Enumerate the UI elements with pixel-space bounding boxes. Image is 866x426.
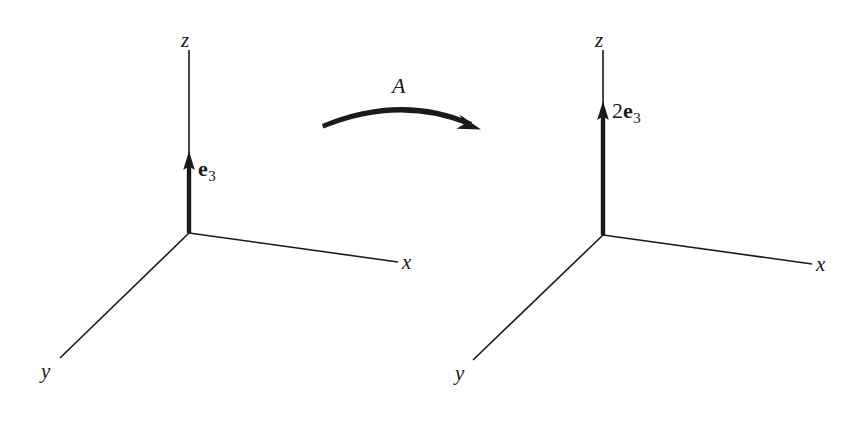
basis-vector-e3-label: e3 <box>198 158 216 184</box>
transformed-vector-2e3-scalar: 2 <box>612 98 623 123</box>
codomain-coordinate-system <box>473 50 812 360</box>
z-axis-label-right: z <box>595 30 603 51</box>
basis-vector-e3-subscript: 3 <box>208 168 216 184</box>
basis-vector-e3 <box>183 151 195 233</box>
y-axis-line <box>60 233 189 358</box>
transformation-arrow-arc <box>322 107 472 129</box>
linear-transformation-figure: z x y e3 z x y 2e3 A <box>0 0 866 426</box>
domain-coordinate-system <box>60 50 398 358</box>
transformation-operator-label: A <box>392 75 405 97</box>
x-axis-line-right <box>603 235 812 264</box>
transformed-vector-2e3-basis: e <box>623 98 633 123</box>
x-axis-line <box>189 233 398 262</box>
x-axis-label-right: x <box>816 254 826 275</box>
figure-canvas <box>0 0 866 426</box>
basis-vector-e3-basis: e <box>198 156 208 181</box>
transformed-vector-2e3 <box>597 101 609 235</box>
z-axis-label: z <box>181 30 189 51</box>
transformed-vector-2e3-label: 2e3 <box>612 100 641 126</box>
transformed-vector-2e3-subscript: 3 <box>633 110 641 126</box>
y-axis-label-right: y <box>455 363 465 384</box>
transformation-arrow <box>322 107 481 130</box>
y-axis-label: y <box>41 361 51 382</box>
y-axis-line-right <box>473 235 603 360</box>
x-axis-label: x <box>402 252 412 273</box>
